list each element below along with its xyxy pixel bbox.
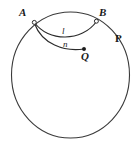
arc-l-path (35, 22, 97, 38)
point-a-label: A (19, 7, 26, 18)
circle-diagram-figure: A B Q P l n (0, 0, 140, 148)
point-b-marker (94, 19, 98, 23)
point-q-label: Q (81, 51, 89, 62)
diagram-canvas (0, 0, 140, 148)
arc-l-label: l (62, 27, 65, 36)
point-b-label: B (99, 7, 106, 18)
arc-n-label: n (63, 40, 68, 49)
point-a-marker (32, 20, 36, 24)
circle-p-label: P (115, 33, 122, 44)
circle-p-outline (12, 12, 130, 138)
